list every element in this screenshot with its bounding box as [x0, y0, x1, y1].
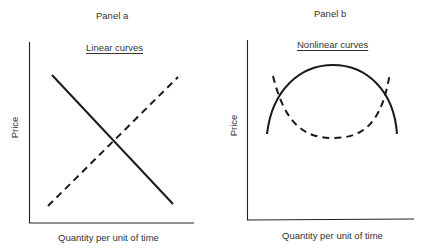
panel-b-y-axis-label: Price — [228, 115, 239, 137]
panel-a-subtitle: Linear curves — [86, 42, 143, 53]
panel-b-subtitle: Nonlinear curves — [297, 39, 368, 50]
panel-a-dashed-line — [48, 77, 178, 206]
panel-b-title: Panel b — [314, 8, 346, 19]
panel-a-axes — [29, 42, 194, 223]
panel-a-y-axis-label: Price — [9, 117, 20, 139]
panel-b-axes — [247, 40, 414, 220]
panel-a-title: Panel a — [96, 10, 128, 21]
panel-b-solid-curve — [267, 65, 397, 134]
diagram-canvas — [0, 0, 427, 250]
panel-a-x-axis-label: Quantity per unit of time — [58, 232, 159, 243]
panel-b-x-axis-label: Quantity per unit of time — [282, 230, 383, 241]
